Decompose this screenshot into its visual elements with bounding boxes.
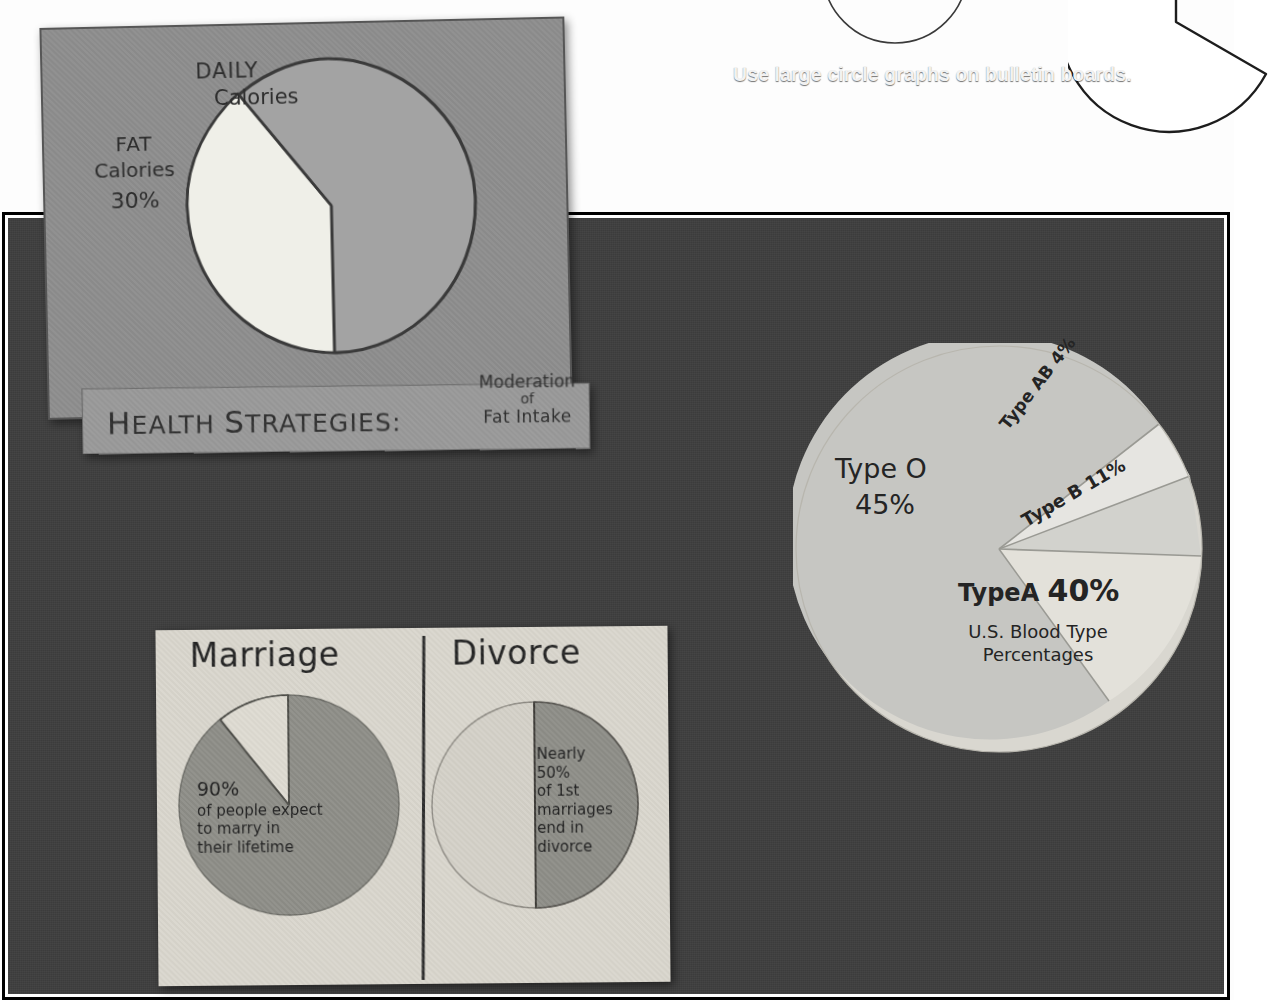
heading-marriage: Marriage bbox=[190, 635, 340, 675]
card-divider-line bbox=[422, 636, 426, 980]
heading-divorce: Divorce bbox=[451, 633, 580, 673]
caption-large-circle-graphs: Use large circle graphs on bulletin boar… bbox=[733, 62, 1233, 87]
chart-divorce-rate bbox=[428, 698, 642, 912]
blood-type-pie-svg bbox=[793, 343, 1205, 755]
health-poster-subtitle: Moderation of Fat Intake bbox=[435, 371, 621, 427]
health-poster-title: HEALTH STRATEGIES: bbox=[107, 402, 402, 441]
chart-us-blood-type: Type O 45% Type AB 4% Type B 11% TypeA 4… bbox=[793, 343, 1205, 755]
chart-marriage-expectation bbox=[174, 690, 404, 920]
chart-health-fat-calories bbox=[169, 43, 494, 368]
health-poster-title-strip: HEALTH STRATEGIES: Moderation of Fat Int… bbox=[82, 383, 591, 455]
decorative-pie-outline-small-icon bbox=[800, 0, 990, 46]
health-strategies-poster: DAILY Calories FAT Calories 30% HEALTH S… bbox=[39, 12, 590, 458]
marriage-divorce-card: Marriage Divorce 90% of people expect to… bbox=[155, 626, 670, 986]
